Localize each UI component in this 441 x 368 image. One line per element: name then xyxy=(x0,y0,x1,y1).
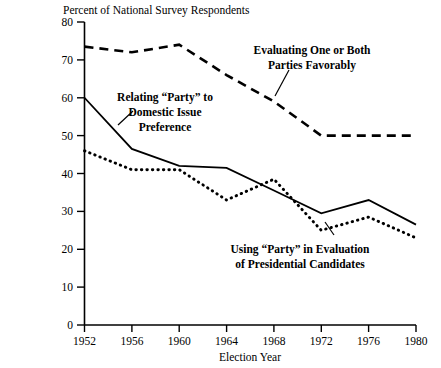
annotation-line: of Presidential Candidates xyxy=(235,258,365,270)
y-tick-label: 60 xyxy=(62,92,74,104)
chart-container: Percent of National Survey Respondents 8… xyxy=(0,0,441,368)
x-tick-label: 1956 xyxy=(120,335,143,347)
annotation-line: Evaluating One or Both xyxy=(253,44,371,57)
line-chart: Percent of National Survey Respondents 8… xyxy=(0,0,441,368)
y-tick-label: 50 xyxy=(62,130,74,142)
series-line-using-party-presidential-candidates xyxy=(85,151,417,238)
y-axis-tick-labels: 80 70 60 50 40 30 20 10 0 xyxy=(62,16,74,331)
chart-title: Percent of National Survey Respondents xyxy=(63,4,250,17)
y-tick-label: 30 xyxy=(62,205,74,217)
annotation-line: Relating “Party” to xyxy=(117,91,213,104)
x-tick-label: 1968 xyxy=(262,335,285,347)
annotation-line: Parties Favorably xyxy=(268,59,356,72)
x-tick-label: 1976 xyxy=(357,335,380,347)
x-axis-ticks xyxy=(85,325,417,332)
x-axis-title: Election Year xyxy=(219,351,281,363)
annotation-line: Preference xyxy=(139,121,192,133)
y-tick-label: 70 xyxy=(62,54,74,66)
x-tick-label: 1980 xyxy=(405,335,428,347)
y-tick-label: 80 xyxy=(62,16,74,28)
y-axis-ticks xyxy=(77,22,85,325)
annotation-line: Domestic Issue xyxy=(128,106,201,118)
annotation-line: Using “Party” in Evaluation xyxy=(231,243,371,256)
y-tick-label: 0 xyxy=(67,319,73,331)
y-tick-label: 40 xyxy=(62,168,74,180)
x-tick-label: 1952 xyxy=(73,335,96,347)
x-tick-label: 1964 xyxy=(215,335,238,347)
annotation-evaluating-parties: Evaluating One or Both Parties Favorably xyxy=(253,44,371,72)
x-tick-label: 1960 xyxy=(168,335,191,347)
leader-line-evaluating xyxy=(275,70,289,96)
annotation-relating-party: Relating “Party” to Domestic Issue Prefe… xyxy=(117,91,213,133)
annotation-using-party: Using “Party” in Evaluation of President… xyxy=(231,243,371,270)
y-tick-label: 20 xyxy=(62,243,74,255)
y-tick-label: 10 xyxy=(62,281,74,293)
x-tick-label: 1972 xyxy=(310,335,333,347)
x-axis-tick-labels: 1952 1956 1960 1964 1968 1972 1976 1980 xyxy=(73,335,428,347)
